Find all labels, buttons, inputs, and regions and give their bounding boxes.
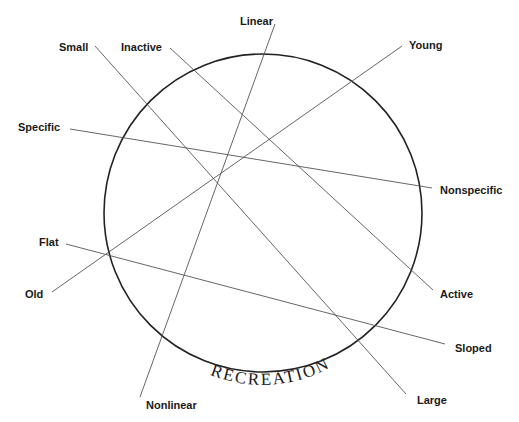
label-nonlinear: Nonlinear bbox=[146, 399, 197, 411]
recreation-diagram: Linear Nonlinear Small Large Inactive Ac… bbox=[0, 0, 519, 422]
label-nonspecific: Nonspecific bbox=[440, 184, 502, 196]
recreation-circle bbox=[104, 54, 422, 372]
axis-flat-sloped bbox=[66, 244, 445, 344]
axis-young-old bbox=[52, 46, 402, 292]
label-young: Young bbox=[409, 39, 442, 51]
axis-specific-nonspecific bbox=[70, 129, 432, 188]
label-large: Large bbox=[417, 394, 447, 406]
label-linear: Linear bbox=[240, 15, 274, 27]
label-old: Old bbox=[25, 288, 43, 300]
label-flat: Flat bbox=[39, 236, 59, 248]
label-sloped: Sloped bbox=[455, 342, 492, 354]
circle-title-text: RECREATION bbox=[208, 354, 333, 389]
label-inactive: Inactive bbox=[121, 41, 162, 53]
circle-title: RECREATION bbox=[208, 354, 333, 389]
label-small: Small bbox=[59, 41, 88, 53]
label-specific: Specific bbox=[18, 121, 60, 133]
axis-linear-nonlinear bbox=[140, 24, 275, 397]
axis-inactive-active bbox=[170, 48, 433, 290]
label-active: Active bbox=[440, 288, 473, 300]
axis-small-large bbox=[95, 46, 406, 394]
